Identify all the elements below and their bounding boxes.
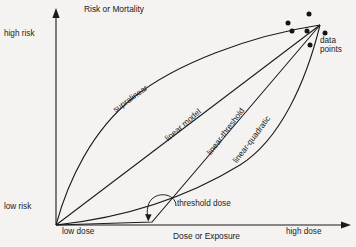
data-point	[308, 43, 313, 48]
data-points-annotation-line2: points	[320, 45, 342, 54]
x-axis-high-label: high dose	[286, 228, 322, 237]
data-point	[307, 12, 312, 17]
threshold-dose-annotation: threshold dose	[177, 200, 231, 209]
y-axis-high-label: high risk	[4, 30, 35, 39]
data-point	[305, 29, 310, 34]
data-point	[290, 29, 295, 34]
y-axis-title: Risk or Mortality	[84, 5, 144, 14]
y-axis-arrowhead	[52, 8, 59, 18]
data-point	[286, 21, 291, 26]
x-axis-arrowhead	[341, 221, 351, 228]
threshold-arrowhead	[145, 214, 152, 222]
y-axis-low-label: low risk	[4, 203, 31, 212]
data-point	[323, 31, 328, 36]
data-points-annotation: data points	[320, 36, 342, 54]
data-points-annotation-line1: data	[320, 36, 342, 45]
x-axis-low-label: low dose	[62, 228, 94, 237]
x-axis-title: Dose or Exposure	[173, 232, 240, 241]
dose-response-diagram: Risk or Mortality high risk low risk low…	[0, 0, 356, 247]
